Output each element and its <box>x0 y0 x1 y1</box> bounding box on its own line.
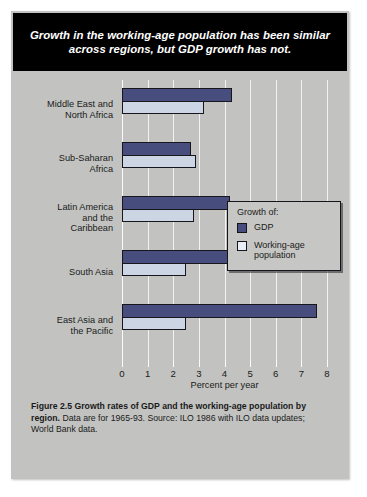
legend-label-working-age-population: Working-age population <box>254 240 342 261</box>
legend-title: Growth of: <box>237 207 279 217</box>
x-tick-label-4: 4 <box>215 368 235 379</box>
caption-rest: Data are for 1965-93. Source: ILO 1986 w… <box>31 413 305 435</box>
category-axis-labels: Middle East andNorth AfricaSub-SaharanAf… <box>13 88 117 360</box>
figure-caption: Figure 2.5 Growth rates of GDP and the w… <box>31 401 326 436</box>
x-tick-3 <box>199 360 200 367</box>
x-axis-ticks: 012345678 <box>122 360 327 370</box>
x-tick-label-3: 3 <box>189 368 209 379</box>
bar-gdp-3 <box>122 250 232 264</box>
category-label-4: East Asia andthe Pacific <box>13 315 113 337</box>
x-tick-label-7: 7 <box>291 368 311 379</box>
chart-area: Middle East andNorth AfricaSub-SaharanAf… <box>13 80 347 390</box>
headline-text: Growth in the working-age population has… <box>13 28 347 57</box>
legend-swatch-working-age-population <box>237 241 247 251</box>
x-tick-1 <box>148 360 149 367</box>
x-tick-label-2: 2 <box>163 368 183 379</box>
x-tick-7 <box>301 360 302 367</box>
bar-working-age-population-0 <box>122 101 204 114</box>
headline-banner: Growth in the working-age population has… <box>13 13 347 71</box>
figure-root: Growth in the working-age population has… <box>0 0 367 497</box>
category-label-0: Middle East andNorth Africa <box>13 99 113 121</box>
bar-working-age-population-3 <box>122 263 186 276</box>
chart-legend: Growth of: GDP Working-age population <box>227 201 341 271</box>
x-tick-8 <box>327 360 328 367</box>
x-tick-5 <box>250 360 251 367</box>
bar-gdp-0 <box>122 88 232 102</box>
bar-gdp-4 <box>122 304 317 318</box>
category-label-2: Latin Americaand theCaribbean <box>13 202 113 234</box>
legend-swatch-gdp <box>237 223 247 233</box>
x-tick-4 <box>225 360 226 367</box>
bar-working-age-population-2 <box>122 209 194 222</box>
x-tick-0 <box>122 360 123 367</box>
bar-gdp-1 <box>122 142 191 156</box>
x-tick-label-1: 1 <box>138 368 158 379</box>
bar-working-age-population-1 <box>122 155 196 168</box>
category-label-3: South Asia <box>13 267 113 278</box>
category-label-1: Sub-SaharanAfrica <box>13 153 113 175</box>
x-tick-label-6: 6 <box>266 368 286 379</box>
x-tick-label-5: 5 <box>240 368 260 379</box>
x-axis-title: Percent per year <box>122 380 327 390</box>
x-tick-label-0: 0 <box>112 368 132 379</box>
x-tick-6 <box>276 360 277 367</box>
legend-label-gdp: GDP <box>254 222 342 232</box>
bar-working-age-population-4 <box>122 317 186 330</box>
x-tick-label-8: 8 <box>317 368 337 379</box>
x-tick-2 <box>173 360 174 367</box>
bar-gdp-2 <box>122 196 230 210</box>
